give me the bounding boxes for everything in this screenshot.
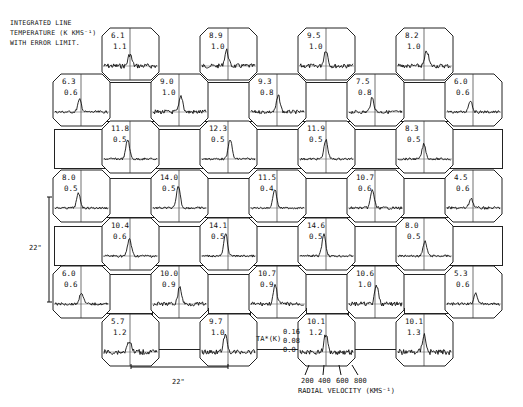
spectrum-panel: 5.7 1.2 <box>102 314 160 366</box>
spectrum-panel: 7.5 0.8 <box>347 74 405 126</box>
error-limit-value: 1.0 <box>211 328 225 337</box>
error-limit-value: 0.5 <box>407 135 421 144</box>
integrated-temperature-value: 11.5 <box>258 173 276 182</box>
integrated-temperature-value: 14.6 <box>307 221 325 230</box>
spectrum-panel: 8.9 1.0 <box>200 28 258 80</box>
error-limit-value: 1.3 <box>407 328 421 337</box>
spectrum-panel: 6.1 1.1 <box>102 28 160 80</box>
integrated-temperature-value: 6.0 <box>62 269 76 278</box>
spectrum-panel: 8.3 0.5 <box>396 121 454 173</box>
error-limit-value: 0.9 <box>260 280 274 289</box>
spectrum-panel: 9.5 1.0 <box>298 28 356 80</box>
spectrum-panel: 14.1 0.5 <box>200 218 258 270</box>
integrated-temperature-value: 6.3 <box>62 77 76 86</box>
spectrum-panel: 10.0 0.9 <box>151 266 209 318</box>
spectrum-panel: 10.7 0.9 <box>249 266 307 318</box>
error-limit-value: 1.0 <box>407 42 421 51</box>
vertical-scale-bar <box>47 196 53 304</box>
horizontal-scale-bar <box>130 364 230 370</box>
integrated-temperature-value: 7.5 <box>356 77 370 86</box>
y-tick-1: 0.08 <box>283 337 300 345</box>
error-limit-value: 0.5 <box>211 135 225 144</box>
spectrum-panel: 6.3 0.6 <box>53 74 111 126</box>
spectrum-panel: 11.9 0.5 <box>298 121 356 173</box>
error-limit-value: 0.6 <box>456 280 470 289</box>
y-tick-2: 0.0 <box>283 346 296 354</box>
spectrum-panel: 10.7 0.6 <box>347 170 405 222</box>
spectrum-panel: 8.0 0.5 <box>396 218 454 270</box>
error-limit-value: 0.5 <box>309 232 323 241</box>
figure-caption: INTEGRATED LINE TEMPERATURE (K KMS⁻¹) WI… <box>10 18 96 48</box>
error-limit-value: 1.2 <box>309 328 323 337</box>
spectrum-panel: 9.3 0.8 <box>249 74 307 126</box>
integrated-temperature-value: 8.0 <box>62 173 76 182</box>
error-limit-value: 0.9 <box>162 280 176 289</box>
integrated-temperature-value: 10.6 <box>356 269 374 278</box>
error-limit-value: 0.6 <box>456 88 470 97</box>
error-limit-value: 0.5 <box>64 184 78 193</box>
error-limit-value: 0.4 <box>260 184 274 193</box>
spectrum-panel: 10.1 1.3 <box>396 314 454 366</box>
spectrum-panel: 5.3 0.6 <box>445 266 503 318</box>
empty-grid-cell <box>446 129 503 169</box>
spectrum-panel: 6.0 0.6 <box>445 74 503 126</box>
spectrum-panel: 12.3 0.5 <box>200 121 258 173</box>
vertical-scale-label: 22" <box>29 244 42 252</box>
caption-line-1: INTEGRATED LINE <box>10 19 72 27</box>
integrated-temperature-value: 8.0 <box>405 221 419 230</box>
integrated-temperature-value: 9.3 <box>258 77 272 86</box>
spectrum-panel: 9.7 1.0 <box>200 314 258 366</box>
error-limit-value: 1.0 <box>309 42 323 51</box>
spectrum-panel: 10.1 1.2 <box>298 314 356 366</box>
spectrum-panel: 10.4 0.6 <box>102 218 160 270</box>
integrated-temperature-value: 10.0 <box>160 269 178 278</box>
x-tick-2: 600 <box>336 377 349 385</box>
spectrum-panel: 6.0 0.6 <box>53 266 111 318</box>
empty-grid-cell <box>446 226 503 266</box>
error-limit-value: 0.6 <box>64 88 78 97</box>
error-limit-value: 0.6 <box>64 280 78 289</box>
spectrum-panel: 11.8 0.5 <box>102 121 160 173</box>
error-limit-value: 0.6 <box>113 232 127 241</box>
caption-line-2: TEMPERATURE (K KMS⁻¹) <box>10 29 96 37</box>
integrated-temperature-value: 4.5 <box>454 173 468 182</box>
integrated-temperature-value: 10.4 <box>111 221 129 230</box>
integrated-temperature-value: 11.8 <box>111 124 129 133</box>
spectrum-panel: 14.6 0.5 <box>298 218 356 270</box>
spectra-grid-figure: INTEGRATED LINE TEMPERATURE (K KMS⁻¹) WI… <box>0 0 523 407</box>
spectrum-panel: 8.0 0.5 <box>53 170 111 222</box>
integrated-temperature-value: 9.7 <box>209 317 223 326</box>
integrated-temperature-value: 11.9 <box>307 124 325 133</box>
error-limit-value: 1.0 <box>162 88 176 97</box>
error-limit-value: 0.8 <box>358 88 372 97</box>
integrated-temperature-value: 10.7 <box>356 173 374 182</box>
spectrum-panel: 10.6 1.0 <box>347 266 405 318</box>
error-limit-value: 0.5 <box>309 135 323 144</box>
integrated-temperature-value: 12.3 <box>209 124 227 133</box>
integrated-temperature-value: 14.1 <box>209 221 227 230</box>
spectrum-panel: 4.5 0.6 <box>445 170 503 222</box>
error-limit-value: 0.5 <box>211 232 225 241</box>
spectrum-panel: 8.2 1.0 <box>396 28 454 80</box>
error-limit-value: 0.6 <box>456 184 470 193</box>
x-tick-3: 800 <box>354 377 367 385</box>
integrated-temperature-value: 8.2 <box>405 31 419 40</box>
integrated-temperature-value: 10.7 <box>258 269 276 278</box>
integrated-temperature-value: 6.0 <box>454 77 468 86</box>
integrated-temperature-value: 10.1 <box>405 317 423 326</box>
integrated-temperature-value: 5.7 <box>111 317 125 326</box>
x-axis-ticks <box>300 365 360 377</box>
integrated-temperature-value: 14.0 <box>160 173 178 182</box>
error-limit-value: 0.5 <box>162 184 176 193</box>
x-axis-label: RADIAL VELOCITY (KMS⁻¹) <box>298 387 395 395</box>
x-tick-1: 400 <box>318 377 331 385</box>
spectrum-panel: 9.0 1.0 <box>151 74 209 126</box>
integrated-temperature-value: 8.9 <box>209 31 223 40</box>
integrated-temperature-value: 5.3 <box>454 269 468 278</box>
integrated-temperature-value: 6.1 <box>111 31 125 40</box>
error-limit-value: 0.5 <box>113 135 127 144</box>
error-limit-value: 0.6 <box>358 184 372 193</box>
spectrum-panel: 11.5 0.4 <box>249 170 307 222</box>
error-limit-value: 0.5 <box>407 232 421 241</box>
x-tick-0: 200 <box>301 377 314 385</box>
